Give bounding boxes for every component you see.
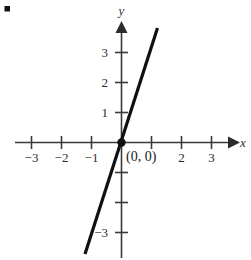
x-tick-label--1: −1	[85, 150, 99, 165]
y-tick-label-2: 2	[102, 75, 109, 90]
x-tick-label-2: 2	[178, 150, 185, 165]
bullet-marker-icon	[5, 6, 11, 12]
y-tick-label--3: −3	[94, 225, 108, 240]
origin-point-label: (0, 0)	[126, 149, 157, 165]
y-axis-label: y	[117, 3, 125, 18]
x-axis-arrowhead-icon	[228, 137, 240, 149]
x-tick-label--3: −3	[25, 150, 39, 165]
x-axis-label: x	[239, 135, 246, 150]
x-tick-label-3: 3	[208, 150, 215, 165]
y-axis-arrowhead-icon	[116, 21, 128, 33]
x-tick-label--2: −2	[55, 150, 69, 165]
coordinate-plane-figure: −3 −2 −1 2 3 3 2 1 −3 x y (0, 0)	[0, 0, 251, 260]
y-tick-label-1: 1	[102, 105, 109, 120]
origin-point-marker	[117, 138, 125, 146]
y-tick-label-3: 3	[102, 45, 109, 60]
